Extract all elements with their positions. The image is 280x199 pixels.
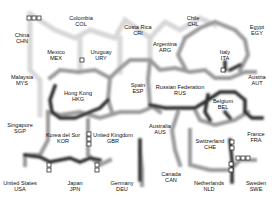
country-label: ArgentinaARG	[153, 41, 177, 54]
country-label: Costa RicaCRI	[124, 24, 151, 37]
country-label: ItalyITA	[220, 49, 230, 62]
country-label: SwitzerlandCHE	[196, 138, 225, 151]
country-code: JPN	[67, 186, 82, 192]
country-label: United KingdomGBR	[93, 132, 133, 145]
country-label: CanadaCAN	[161, 171, 181, 184]
country-label: AustraliaAUS	[149, 123, 171, 136]
country-label: ChileCHL	[187, 15, 200, 28]
country-code: ESP	[131, 88, 145, 94]
country-label: Hong KongHKG	[64, 90, 92, 103]
country-code: SGP	[7, 128, 33, 134]
country-label: JapanJPN	[67, 180, 82, 193]
country-label: MexicoMEX	[47, 49, 65, 62]
country-label: SpainESP	[131, 82, 145, 95]
country-code: BEL	[213, 104, 233, 110]
country-label: EgyptEGY	[250, 24, 264, 37]
country-label: NetherlandsNLD	[194, 180, 224, 193]
country-code: NLD	[194, 186, 224, 192]
country-code: AUS	[149, 129, 171, 135]
country-code: HKG	[64, 96, 92, 102]
country-code: USA	[3, 186, 37, 192]
country-label: SingaporeSGP	[7, 122, 33, 135]
country-code: CRI	[124, 30, 151, 36]
country-code: ITA	[220, 55, 230, 61]
country-label: Russian FederationRUS	[156, 84, 205, 97]
country-code: MYS	[11, 80, 33, 86]
country-code: DEU	[110, 186, 133, 192]
country-code: COL	[69, 21, 93, 27]
country-code: EGY	[250, 30, 264, 36]
country-code: CAN	[161, 177, 181, 183]
country-code: AUT	[248, 80, 265, 86]
country-label: Korea del SurKOR	[46, 132, 80, 145]
country-label: GermanyDEU	[110, 180, 133, 193]
country-label: AustriaAUT	[248, 74, 265, 87]
country-code: URY	[90, 55, 111, 61]
country-code: CHN	[15, 38, 30, 44]
country-code: ARG	[153, 47, 177, 53]
country-label: United StatesUSA	[3, 180, 37, 193]
country-code: SWE	[246, 186, 266, 192]
country-code: MEX	[47, 55, 65, 61]
country-label: FranceFRA	[247, 131, 264, 144]
country-code: KOR	[46, 138, 80, 144]
country-code: CHE	[196, 144, 225, 150]
country-label: MalaysiaMYS	[11, 74, 33, 87]
country-label: ColombiaCOL	[69, 15, 93, 28]
country-code: CHL	[187, 21, 200, 27]
country-label: SwedenSWE	[246, 180, 266, 193]
country-code: FRA	[247, 137, 264, 143]
country-code: RUS	[156, 90, 205, 96]
country-label: UruguayURY	[90, 49, 111, 62]
country-code: GBR	[93, 138, 133, 144]
country-label: ChinaCHN	[15, 32, 30, 45]
country-label: BelgiumBEL	[213, 98, 233, 111]
